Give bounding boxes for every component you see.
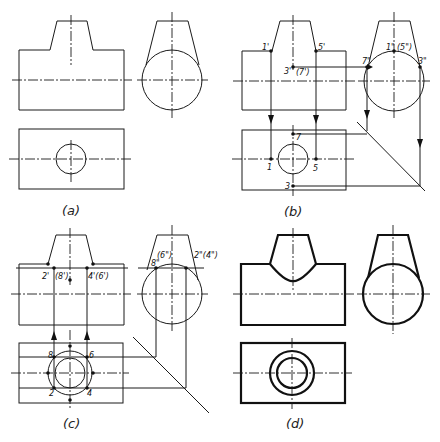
label-4: 4 [87, 389, 92, 398]
panel-d-top-view [233, 338, 352, 409]
label-7-prime: (7') [296, 68, 310, 77]
label-8-prime: (8') [55, 272, 69, 281]
label-5-prime: 5' [318, 43, 325, 52]
panel-d-caption: (d) [286, 416, 304, 431]
panel-c-front-view [11, 228, 131, 388]
panel-b: 1' 5' 3' (7') 1" (5") 7" 3" 1 5 7 3 (b) [232, 12, 430, 219]
label-7-double-prime: 7" [362, 57, 371, 66]
panel-b-side-view [357, 12, 430, 191]
panel-c-caption: (c) [63, 416, 80, 431]
label-2: 2 [49, 389, 54, 398]
label-1-double-prime: 1" [386, 43, 395, 52]
panel-a-top-view [9, 129, 133, 189]
panel-a-caption: (a) [62, 203, 80, 218]
label-8-double-prime: 8" [151, 259, 160, 268]
panel-b-front-view [233, 15, 373, 159]
label-8: 8 [48, 351, 53, 360]
panel-a-front-view [12, 15, 132, 110]
panel-b-caption: (b) [284, 204, 302, 219]
panel-c-top-view [11, 330, 186, 410]
panel-d: (d) [233, 225, 430, 431]
label-3: 3 [285, 182, 290, 191]
label-4-6-prime: 4'(6') [88, 272, 109, 281]
label-5: 5 [313, 164, 318, 173]
label-1: 1 [267, 163, 272, 172]
panel-d-front-view [233, 228, 354, 325]
label-2-prime: 2' [42, 272, 49, 281]
panel-b-top-view [232, 125, 420, 196]
panel-c: 2' (8') 4'(6') (6") 8" 2"(4") 8 6 2 4 (c… [11, 225, 218, 431]
panel-a-side-view [137, 12, 208, 120]
panel-d-side-view [357, 225, 430, 334]
label-3-double-prime: 3" [418, 57, 427, 66]
label-1-prime: 1' [262, 43, 269, 52]
orthographic-projection-figure: (a) [0, 0, 440, 442]
label-5-double-prime: (5") [397, 43, 412, 52]
label-3-prime: 3' [284, 67, 291, 76]
label-6: 6 [89, 351, 94, 360]
label-2-4-double-prime: 2"(4") [194, 251, 218, 260]
panel-a: (a) [9, 12, 208, 218]
